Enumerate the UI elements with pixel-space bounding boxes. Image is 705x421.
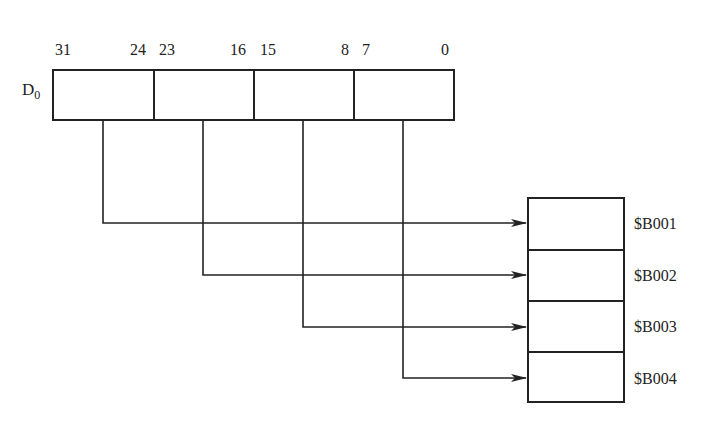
diagram-canvas bbox=[0, 0, 705, 421]
address-label-b004: $B004 bbox=[634, 371, 677, 387]
register-d0 bbox=[53, 70, 454, 120]
register-subscript: 0 bbox=[34, 88, 40, 102]
address-label-b002: $B002 bbox=[634, 268, 677, 284]
bit-label-16: 16 bbox=[230, 42, 246, 58]
bit-label-24: 24 bbox=[130, 42, 146, 58]
address-label-b001: $B001 bbox=[634, 216, 677, 232]
bit-label-31: 31 bbox=[55, 42, 71, 58]
register-name: D bbox=[22, 80, 34, 99]
arrow-byte0-to-b004 bbox=[403, 120, 526, 378]
connectors bbox=[103, 120, 526, 378]
arrow-byte2-to-b002 bbox=[203, 120, 526, 275]
bit-label-8: 8 bbox=[341, 42, 349, 58]
bit-label-7: 7 bbox=[362, 42, 370, 58]
bit-label-23: 23 bbox=[159, 42, 175, 58]
memory-block bbox=[528, 198, 624, 402]
register-label: D0 bbox=[22, 80, 40, 103]
bit-label-0: 0 bbox=[441, 42, 449, 58]
bit-label-15: 15 bbox=[260, 42, 276, 58]
arrow-byte3-to-b001 bbox=[103, 120, 526, 223]
address-label-b003: $B003 bbox=[634, 319, 677, 335]
